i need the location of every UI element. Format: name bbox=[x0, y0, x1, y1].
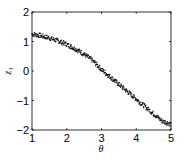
data-point bbox=[123, 87, 124, 88]
data-point bbox=[92, 57, 93, 58]
data-point bbox=[131, 92, 132, 93]
y-tick-label: −1 bbox=[16, 95, 29, 107]
data-point bbox=[99, 65, 100, 66]
data-point bbox=[118, 83, 119, 84]
data-point bbox=[44, 35, 45, 36]
data-point bbox=[143, 107, 144, 108]
data-point bbox=[53, 37, 54, 38]
x-tick-label: 2 bbox=[64, 132, 70, 144]
data-point bbox=[59, 42, 60, 43]
data-point bbox=[58, 40, 59, 41]
y-tick-label: 1 bbox=[23, 36, 29, 48]
y-axis-label: z₁ bbox=[2, 67, 13, 75]
data-point bbox=[98, 66, 99, 67]
data-point bbox=[157, 115, 158, 116]
data-point bbox=[108, 77, 109, 78]
data-point bbox=[123, 85, 124, 86]
data-point bbox=[159, 117, 160, 118]
data-point bbox=[51, 37, 52, 38]
data-point bbox=[90, 56, 91, 57]
data-point bbox=[148, 107, 149, 108]
data-point bbox=[82, 55, 83, 56]
data-point bbox=[65, 42, 66, 43]
data-point bbox=[50, 40, 51, 41]
data-point bbox=[142, 102, 143, 103]
scatter-chart: 12345210−1−2 θ z₁ bbox=[0, 0, 185, 165]
data-point bbox=[38, 35, 39, 36]
data-point bbox=[74, 46, 75, 47]
data-point bbox=[88, 55, 89, 56]
data-point bbox=[46, 35, 47, 36]
data-point bbox=[81, 50, 82, 51]
data-point bbox=[61, 44, 62, 45]
data-point bbox=[33, 36, 34, 37]
data-point bbox=[75, 48, 76, 49]
data-point bbox=[120, 83, 121, 84]
data-point bbox=[84, 52, 85, 53]
data-point bbox=[63, 41, 64, 42]
y-tick-label: −2 bbox=[16, 124, 29, 136]
data-point bbox=[79, 50, 80, 51]
data-point bbox=[99, 67, 100, 68]
data-point bbox=[114, 82, 115, 83]
data-point bbox=[140, 102, 141, 103]
data-point bbox=[62, 44, 63, 45]
data-point bbox=[69, 48, 70, 49]
x-axis-label: θ bbox=[99, 143, 104, 154]
data-point bbox=[35, 35, 36, 36]
data-point bbox=[148, 111, 149, 112]
data-point bbox=[103, 71, 104, 72]
x-tick-label: 5 bbox=[168, 132, 174, 144]
y-tick-label: 2 bbox=[23, 6, 29, 18]
data-point bbox=[145, 104, 146, 105]
data-point bbox=[133, 95, 134, 96]
data-point bbox=[128, 93, 129, 94]
data-point bbox=[127, 90, 128, 91]
data-point bbox=[95, 62, 96, 63]
data-point bbox=[122, 89, 123, 90]
data-point bbox=[126, 89, 127, 90]
data-point bbox=[42, 33, 43, 34]
x-tick-label: 1 bbox=[29, 132, 35, 144]
data-point bbox=[64, 43, 65, 44]
data-point bbox=[118, 85, 119, 86]
data-point bbox=[116, 80, 117, 81]
data-point bbox=[104, 70, 105, 71]
data-point bbox=[105, 72, 106, 73]
data-point bbox=[77, 52, 78, 53]
data-point bbox=[152, 112, 153, 113]
data-point bbox=[130, 94, 131, 95]
data-point bbox=[55, 41, 56, 42]
y-tick-label: 0 bbox=[23, 65, 29, 77]
data-point bbox=[152, 111, 153, 112]
data-point bbox=[80, 52, 81, 53]
data-point bbox=[85, 56, 86, 57]
data-point bbox=[91, 61, 92, 62]
data-point bbox=[112, 78, 113, 79]
data-point bbox=[167, 121, 168, 122]
data-point bbox=[165, 120, 166, 121]
data-point bbox=[40, 33, 41, 34]
data-point bbox=[149, 109, 150, 110]
data-point bbox=[109, 74, 110, 75]
data-point bbox=[117, 83, 118, 84]
data-point bbox=[102, 68, 103, 69]
data-point bbox=[34, 32, 35, 33]
data-point bbox=[41, 34, 42, 35]
data-point bbox=[167, 125, 168, 126]
data-point bbox=[61, 39, 62, 40]
data-point bbox=[120, 87, 121, 88]
data-point bbox=[97, 64, 98, 65]
data-point bbox=[109, 75, 110, 76]
data-point bbox=[79, 49, 80, 50]
data-point bbox=[51, 36, 52, 37]
data-point bbox=[122, 87, 123, 88]
data-point bbox=[107, 75, 108, 76]
data-point bbox=[166, 124, 167, 125]
data-point bbox=[153, 114, 154, 115]
data-point bbox=[145, 106, 146, 107]
data-point bbox=[111, 79, 112, 80]
data-point bbox=[48, 36, 49, 37]
data-point bbox=[114, 79, 115, 80]
data-point bbox=[103, 69, 104, 70]
